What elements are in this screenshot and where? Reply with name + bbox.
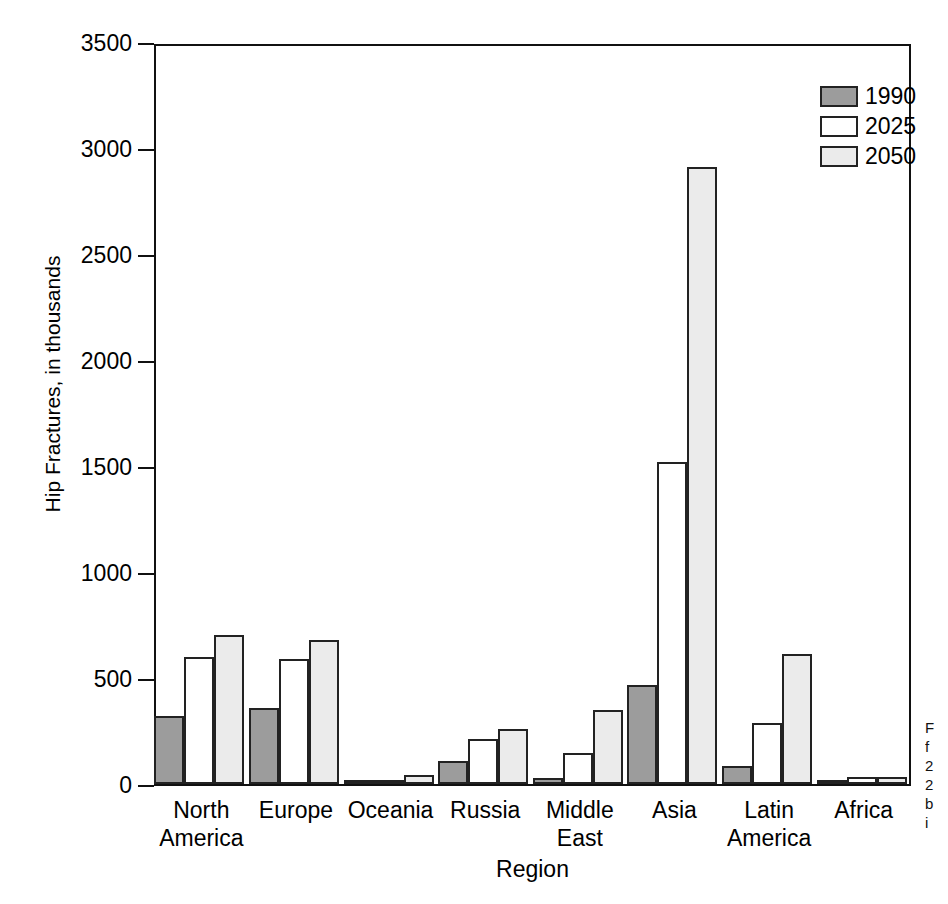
bar-latin-america-2025 <box>752 723 782 784</box>
bar-middle-east-2025 <box>563 753 593 784</box>
caption-line: 2 <box>925 756 948 775</box>
y-axis-tick <box>138 255 154 257</box>
y-axis-tick-label: 1000 <box>8 562 132 585</box>
y-axis-tick <box>138 679 154 681</box>
bar-oceania-2050 <box>404 775 434 784</box>
legend-swatch-icon <box>820 86 858 107</box>
legend-label: 2050 <box>865 145 916 168</box>
legend-item-2025: 2025 <box>820 111 948 141</box>
bar-europe-2025 <box>279 659 309 784</box>
bar-oceania-1990 <box>344 780 374 784</box>
bar-africa-2025 <box>847 777 877 784</box>
bar-asia-2050 <box>687 167 717 784</box>
y-axis-tick-label: 3000 <box>8 138 132 161</box>
bar-russia-1990 <box>438 761 468 784</box>
bar-asia-1990 <box>627 685 657 784</box>
caption-line: b <box>925 794 948 813</box>
legend-item-1990: 1990 <box>820 81 948 111</box>
caption-line: i <box>925 813 948 832</box>
y-axis-tick <box>138 361 154 363</box>
bar-russia-2050 <box>498 729 528 784</box>
y-axis-tick-label: 1500 <box>8 456 132 479</box>
y-axis-tick-label: 0 <box>8 774 132 797</box>
bar-middle-east-1990 <box>533 778 563 784</box>
x-axis-tick-label-line: America <box>121 824 281 852</box>
caption-line: f <box>925 737 948 756</box>
bar-middle-east-2050 <box>593 710 623 784</box>
bar-oceania-2025 <box>374 780 404 784</box>
bar-asia-2025 <box>657 462 687 784</box>
caption-line: F <box>925 718 948 737</box>
bar-north-america-1990 <box>154 716 184 784</box>
bar-africa-2050 <box>877 777 907 784</box>
bar-latin-america-1990 <box>722 766 752 784</box>
legend-swatch-icon <box>820 146 858 167</box>
caption-line: 2 <box>925 775 948 794</box>
y-axis-tick-label: 2500 <box>8 244 132 267</box>
y-axis-title: Hip Fractures, in thousands <box>41 84 65 684</box>
bar-latin-america-2050 <box>782 654 812 784</box>
plot-area: 199020252050 <box>154 44 911 786</box>
x-axis-title: Region <box>154 856 911 883</box>
y-axis-tick-label: 500 <box>8 668 132 691</box>
bar-africa-1990 <box>817 780 847 784</box>
x-axis-tick-label: Africa <box>784 796 944 824</box>
hip-fractures-bar-chart: Hip Fractures, in thousands 350030002500… <box>0 0 948 904</box>
bar-europe-2050 <box>309 640 339 784</box>
legend-swatch-icon <box>820 116 858 137</box>
bar-russia-2025 <box>468 739 498 784</box>
y-axis-tick <box>138 573 154 575</box>
x-axis-tick-label-line: East <box>500 824 660 852</box>
y-axis-tick <box>138 467 154 469</box>
y-axis-tick-label: 3500 <box>8 32 132 55</box>
y-axis-tick <box>138 149 154 151</box>
bar-europe-1990 <box>249 708 279 784</box>
bar-north-america-2050 <box>214 635 244 784</box>
legend-label: 2025 <box>865 115 916 138</box>
y-axis-tick <box>138 785 154 787</box>
bar-north-america-2025 <box>184 657 214 784</box>
x-axis-tick-label-line: Africa <box>784 796 944 824</box>
y-axis-tick <box>138 43 154 45</box>
legend: 199020252050 <box>820 81 948 171</box>
x-axis-tick-label-line: America <box>689 824 849 852</box>
figure-caption-fragment: Ff22bi <box>925 718 948 832</box>
legend-label: 1990 <box>865 85 916 108</box>
y-axis-tick-label: 2000 <box>8 350 132 373</box>
legend-item-2050: 2050 <box>820 141 948 171</box>
